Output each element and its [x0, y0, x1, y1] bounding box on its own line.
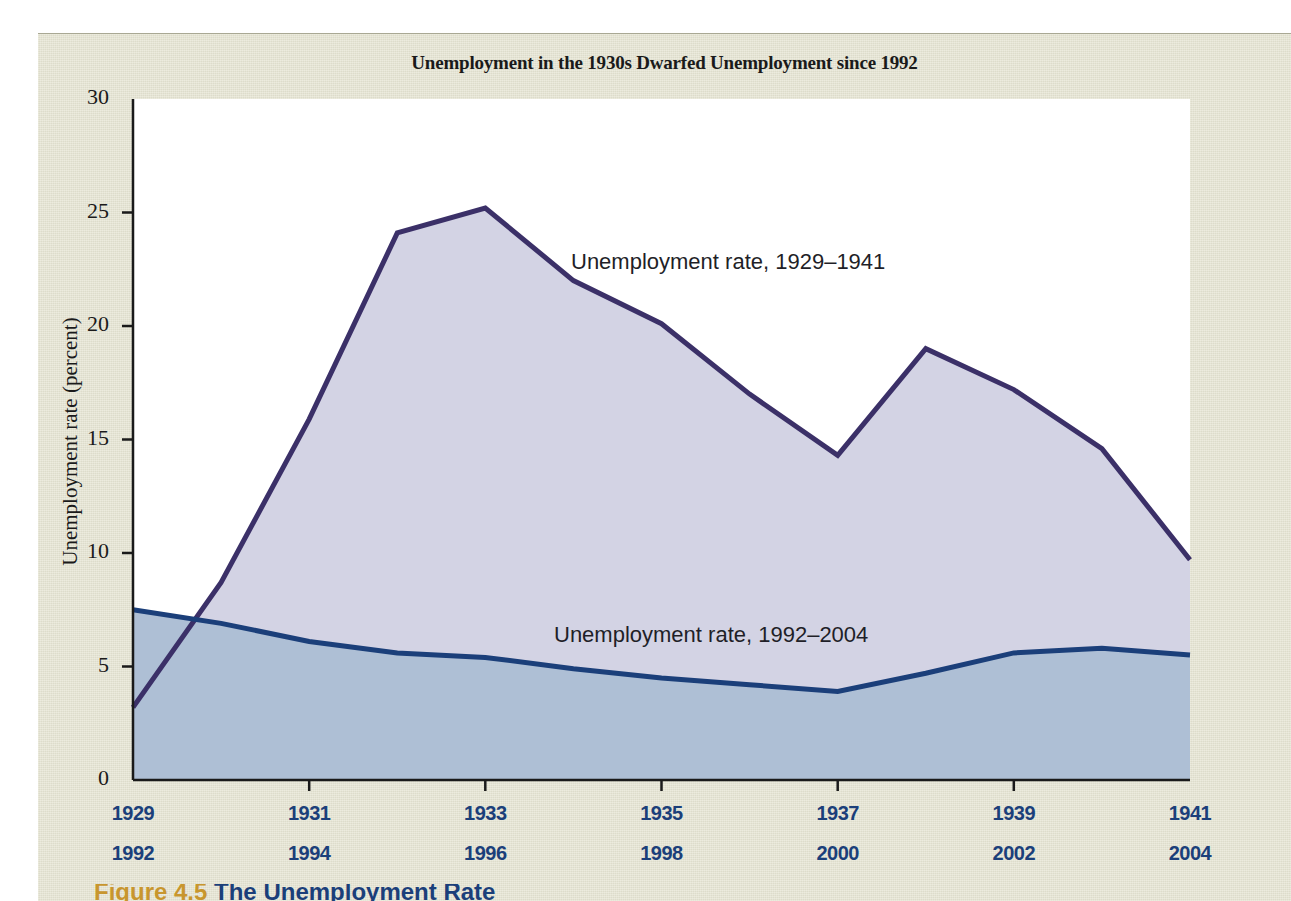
x-tick-label-bottom-1992: 1992: [78, 842, 188, 865]
x-tick-label-bottom-2002: 2002: [959, 842, 1069, 865]
x-tick-label-bottom-2000: 2000: [783, 842, 893, 865]
x-tick-label-top-1929: 1929: [78, 802, 188, 825]
x-tick-label-top-1933: 1933: [430, 802, 540, 825]
series-label-depression: Unemployment rate, 1929–1941: [571, 249, 885, 275]
x-tick-label-top-1935: 1935: [607, 802, 717, 825]
plot-area: Unemployment rate (percent) 302520151050…: [38, 34, 1291, 901]
x-tick-label-bottom-2004: 2004: [1135, 842, 1245, 865]
x-axis-ticks: [309, 780, 1014, 791]
figure-root: Unemployment in the 1930s Dwarfed Unempl…: [0, 0, 1291, 901]
figure-panel: Unemployment in the 1930s Dwarfed Unempl…: [38, 33, 1291, 901]
x-tick-label-top-1937: 1937: [783, 802, 893, 825]
x-tick-label-bottom-1994: 1994: [254, 842, 364, 865]
figure-caption: Figure 4.5 The Unemployment Rate: [94, 884, 495, 901]
x-tick-label-bottom-1998: 1998: [607, 842, 717, 865]
x-tick-label-top-1941: 1941: [1135, 802, 1245, 825]
chart-svg: [38, 34, 1291, 901]
x-tick-label-top-1931: 1931: [254, 802, 364, 825]
figure-caption-number: Figure 4.5: [94, 884, 207, 901]
series-label-modern: Unemployment rate, 1992–2004: [554, 622, 868, 648]
y-tick-label-5: 5: [63, 652, 109, 678]
x-tick-label-top-1939: 1939: [959, 802, 1069, 825]
y-tick-label-15: 15: [63, 425, 109, 451]
x-tick-label-bottom-1996: 1996: [430, 842, 540, 865]
y-tick-label-0: 0: [63, 765, 109, 791]
figure-caption-strip: Figure 4.5 The Unemployment Rate: [38, 884, 1291, 901]
y-tick-label-25: 25: [63, 198, 109, 224]
y-axis-ticks: [122, 213, 133, 667]
y-tick-label-20: 20: [63, 311, 109, 337]
y-tick-label-30: 30: [63, 84, 109, 110]
y-tick-label-10: 10: [63, 538, 109, 564]
figure-caption-text: The Unemployment Rate: [214, 884, 495, 901]
